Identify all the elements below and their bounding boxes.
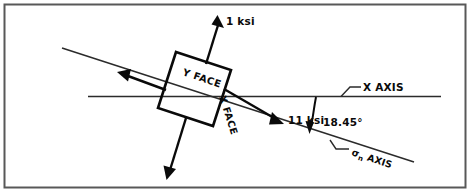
angle-value-label: 18.45° — [323, 116, 363, 128]
diagram-canvas: 1 ksi 11 ksi Y FACE X FACE X AXIS 18.45°… — [0, 0, 470, 192]
top-stress-label: 1 ksi — [226, 15, 255, 27]
stress-element-figure: 1 ksi 11 ksi Y FACE X FACE X AXIS 18.45°… — [0, 0, 470, 192]
x-axis-label: X AXIS — [363, 81, 404, 93]
right-stress-label: 11 ksi — [288, 114, 324, 126]
